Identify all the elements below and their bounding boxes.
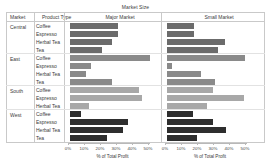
bar-major-coffee[interactable] <box>70 55 150 61</box>
axis-tick-label: 30% <box>112 146 121 151</box>
bar-small-coffee[interactable] <box>167 87 213 93</box>
bar-small-espresso[interactable] <box>167 63 172 69</box>
header-product-type: Product Type <box>42 14 71 20</box>
bar-small-coffee[interactable] <box>167 23 194 29</box>
bar-small-tea[interactable] <box>167 135 197 141</box>
bar-lane-small <box>167 78 265 86</box>
product-type-label: Herbal Tea <box>36 103 60 109</box>
bar-major-coffee[interactable] <box>70 23 118 29</box>
axis-tick-label: 0% <box>65 146 71 151</box>
product-type-label: Coffee <box>36 55 51 61</box>
market-group-central: CentralCoffeeEspressoHerbal TeaTea <box>6 22 265 54</box>
axis-tick <box>148 143 149 145</box>
axis-tick <box>100 143 101 145</box>
header-market: Market <box>10 14 25 20</box>
axis-tick-label: 50% <box>241 146 250 151</box>
bar-lane-small <box>167 70 265 78</box>
bar-small-herbal-tea[interactable] <box>167 39 225 45</box>
bar-lane-major <box>70 118 167 126</box>
axis-tick-label: 20% <box>193 146 202 151</box>
bar-small-espresso[interactable] <box>167 119 213 125</box>
product-type-label: Coffee <box>36 111 51 117</box>
axis-tick-label: 20% <box>96 146 105 151</box>
bar-small-espresso[interactable] <box>167 95 244 101</box>
table-row: Espresso <box>6 94 265 102</box>
axis-tick <box>181 143 182 145</box>
bar-major-herbal-tea[interactable] <box>70 71 86 77</box>
bar-major-tea[interactable] <box>70 135 107 141</box>
axis-tick-label: 40% <box>225 146 234 151</box>
table-row: Coffee <box>6 86 265 94</box>
bar-small-coffee[interactable] <box>167 55 245 61</box>
table-row: Coffee <box>6 54 265 62</box>
product-type-label: Tea <box>36 47 44 53</box>
product-type-label: Herbal Tea <box>36 71 60 77</box>
bar-lane-major <box>70 134 167 142</box>
bar-major-espresso[interactable] <box>70 31 118 37</box>
bar-small-herbal-tea[interactable] <box>167 103 207 109</box>
product-type-label: Espresso <box>36 31 57 37</box>
bar-small-coffee[interactable] <box>167 111 193 117</box>
axis-tick-label: 50% <box>144 146 153 151</box>
bar-lane-small <box>167 62 265 70</box>
bar-lane-small <box>167 30 265 38</box>
bar-lane-major <box>70 94 167 102</box>
chart-title: Market Size <box>0 4 271 10</box>
bar-lane-small <box>167 38 265 46</box>
bar-lane-major <box>70 78 167 86</box>
product-type-label: Espresso <box>36 63 57 69</box>
bar-lane-major <box>70 30 167 38</box>
axis-small-market: 0%10%20%30%40%50% % of Total Profit <box>161 143 259 168</box>
bar-small-herbal-tea[interactable] <box>167 127 226 133</box>
product-type-label: Coffee <box>36 87 51 93</box>
bar-lane-major <box>70 126 167 134</box>
axis-tick-label: 30% <box>209 146 218 151</box>
bar-major-espresso[interactable] <box>70 63 91 69</box>
axis-label-major: % of Total Profit <box>64 154 161 159</box>
product-type-label: Tea <box>36 135 44 141</box>
bar-major-herbal-tea[interactable] <box>70 39 112 45</box>
axis-tick <box>132 143 133 145</box>
bar-lane-small <box>167 22 265 30</box>
bar-major-espresso[interactable] <box>70 95 142 101</box>
bar-major-herbal-tea[interactable] <box>70 103 89 109</box>
bar-lane-small <box>167 126 265 134</box>
bar-major-tea[interactable] <box>70 79 112 85</box>
bar-lane-major <box>70 38 167 46</box>
bar-major-espresso[interactable] <box>70 119 128 125</box>
axis-tick-label: 0% <box>162 146 168 151</box>
bar-major-tea[interactable] <box>70 47 102 53</box>
bar-small-espresso[interactable] <box>167 31 194 37</box>
axis-tick <box>229 143 230 145</box>
bar-lane-major <box>70 46 167 54</box>
bar-lane-major <box>70 110 167 118</box>
bar-lane-small <box>167 46 265 54</box>
bar-major-herbal-tea[interactable] <box>70 127 123 133</box>
table-row: Espresso <box>6 62 265 70</box>
axis-tick <box>68 143 69 145</box>
table-row: Herbal Tea <box>6 126 265 134</box>
table-row: Espresso <box>6 30 265 38</box>
product-type-label: Tea <box>36 79 44 85</box>
bar-lane-small <box>167 110 265 118</box>
bar-lane-major <box>70 62 167 70</box>
bar-major-coffee[interactable] <box>70 111 81 117</box>
column-header-row: Market Product Type Major Market Small M… <box>6 12 265 22</box>
axis-major-market: 0%10%20%30%40%50% % of Total Profit <box>64 143 161 168</box>
bar-small-herbal-tea[interactable] <box>167 71 201 77</box>
table-row: Herbal Tea <box>6 38 265 46</box>
bar-small-tea[interactable] <box>167 47 218 53</box>
table-row: Tea <box>6 134 265 142</box>
product-type-label: Espresso <box>36 95 57 101</box>
bar-small-tea[interactable] <box>167 79 215 85</box>
product-type-label: Espresso <box>36 119 57 125</box>
product-type-label: Coffee <box>36 23 51 29</box>
market-group-west: WestCoffeeEspressoHerbal TeaTea <box>6 110 265 142</box>
axis-tick-label: 10% <box>177 146 186 151</box>
bar-lane-small <box>167 118 265 126</box>
bar-lane-major <box>70 54 167 62</box>
table-row: Coffee <box>6 110 265 118</box>
bar-major-coffee[interactable] <box>70 87 139 93</box>
table-row: Coffee <box>6 22 265 30</box>
market-group-east: EastCoffeeEspressoHerbal TeaTea <box>6 54 265 86</box>
